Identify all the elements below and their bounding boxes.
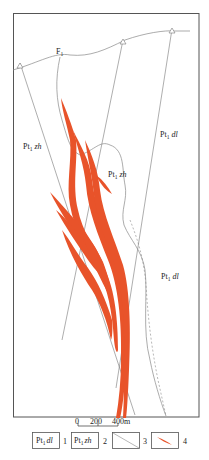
unit-label-1: Pt1zh [23,142,42,152]
svg-text:Pt1dl: Pt1dl [160,130,178,140]
svg-text:Pt1zh: Pt1zh [23,142,42,152]
orebodies [50,98,130,418]
map-frame [14,14,200,418]
geological-map: F1 Pt1zh Pt1dl Pt1zh Pt1dl 0 200 400m Pt… [0,0,209,460]
scale-bar: 0 200 400m [75,417,131,426]
svg-text:400m: 400m [112,417,131,426]
svg-text:4: 4 [183,437,187,446]
svg-text:200: 200 [90,417,102,426]
unit-label-2: Pt1dl [160,130,178,140]
svg-text:0: 0 [75,417,79,426]
legend-item-3: 3 [113,433,148,449]
svg-text:Pt1zh: Pt1zh [108,170,127,180]
surface-line [13,31,190,70]
fault-label: F1 [56,47,63,57]
svg-text:3: 3 [143,437,147,446]
svg-text:1: 1 [63,437,67,446]
unit-label-3: Pt1zh [108,170,127,180]
legend-item-1: Pt1dl 1 [33,433,68,449]
legend: Pt1dl 1 Pt1zh 2 3 4 [33,433,188,449]
svg-text:2: 2 [103,437,107,446]
legend-item-4: 4 [152,433,188,449]
contact-dashed [130,220,166,416]
svg-text:Pt1dl: Pt1dl [161,272,179,282]
unit-label-4: Pt1dl [161,272,179,282]
legend-item-2: Pt1zh 2 [72,433,108,449]
